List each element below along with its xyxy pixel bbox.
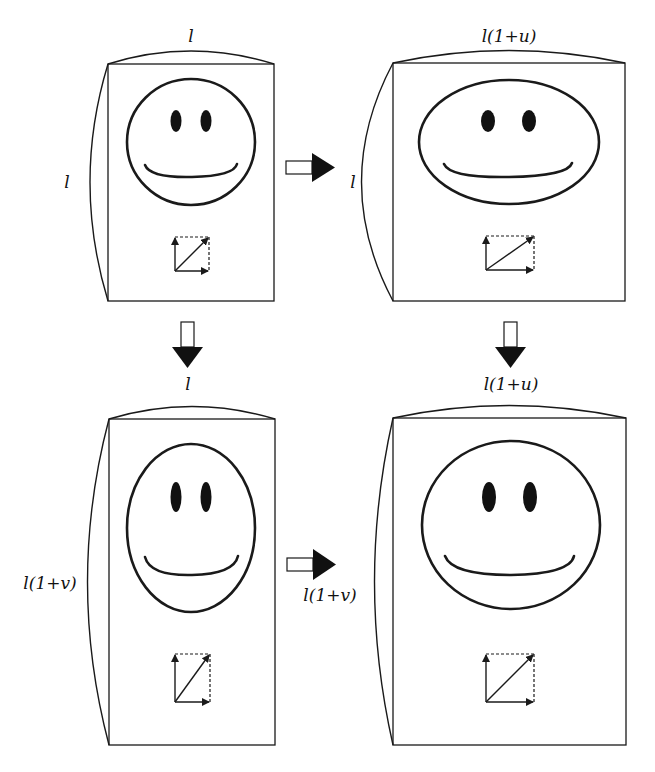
left-eye bbox=[171, 482, 182, 512]
smile-mouth bbox=[145, 164, 237, 177]
right-eye bbox=[523, 482, 537, 512]
panel-stretched-vertical: l l(1+v) bbox=[23, 374, 275, 745]
top-dimension-label: l(1+u) bbox=[484, 374, 539, 394]
right-eye bbox=[201, 482, 212, 512]
side-dimension-arc bbox=[88, 419, 110, 745]
panel-stretched-horizontal: l(1+u) l bbox=[350, 26, 625, 301]
face-outline bbox=[422, 441, 600, 609]
vector-parallelogram-icon bbox=[175, 237, 209, 271]
arrow-down-left bbox=[172, 322, 203, 368]
top-dimension-arc bbox=[109, 407, 275, 420]
panel-original: l l bbox=[64, 26, 274, 301]
side-dimension-label: l bbox=[64, 172, 69, 192]
top-dimension-label: l(1+u) bbox=[482, 26, 537, 46]
smile-mouth bbox=[145, 556, 238, 575]
smiley-face bbox=[419, 80, 599, 204]
panel-stretched-both: l(1+u) l(1+v) bbox=[303, 374, 626, 745]
left-eye bbox=[171, 110, 182, 132]
face-outline bbox=[127, 444, 255, 612]
side-dimension-label: l(1+v) bbox=[23, 573, 76, 593]
arrow-down-right bbox=[495, 322, 526, 368]
left-eye bbox=[481, 110, 495, 132]
panel-box bbox=[393, 63, 625, 301]
side-dimension-label: l(1+v) bbox=[303, 585, 356, 605]
vector-parallelogram-icon bbox=[486, 236, 534, 270]
panel-box bbox=[108, 64, 274, 301]
top-dimension-arc bbox=[393, 406, 626, 419]
smiley-face bbox=[422, 441, 600, 609]
right-eye bbox=[522, 110, 536, 132]
smile-mouth bbox=[444, 163, 572, 177]
panel-box bbox=[109, 419, 275, 745]
face-outline bbox=[419, 80, 599, 204]
top-dimension-label: l bbox=[185, 374, 190, 394]
smiley-face bbox=[127, 444, 255, 612]
side-dimension-arc bbox=[90, 64, 108, 301]
smiley-face bbox=[127, 79, 255, 205]
panel-box bbox=[393, 418, 626, 745]
arrow-right-bottom bbox=[287, 549, 336, 580]
left-eye bbox=[482, 482, 496, 512]
face-outline bbox=[127, 79, 255, 205]
smile-mouth bbox=[445, 556, 574, 575]
top-dimension-label: l bbox=[188, 26, 193, 46]
arrow-right-top bbox=[286, 153, 335, 182]
side-dimension-arc bbox=[375, 418, 394, 745]
vector-parallelogram-icon bbox=[486, 654, 534, 702]
deformation-diagram: l l l(1+u) l bbox=[0, 0, 655, 772]
top-dimension-arc bbox=[108, 51, 274, 64]
side-dimension-label: l bbox=[350, 172, 355, 192]
right-eye bbox=[201, 110, 212, 132]
side-dimension-arc bbox=[362, 63, 394, 301]
vector-parallelogram-icon bbox=[175, 654, 210, 702]
top-dimension-arc bbox=[393, 51, 625, 64]
